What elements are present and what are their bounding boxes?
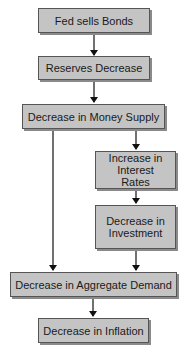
node-decrease-investment: Decrease in Investment bbox=[95, 205, 176, 249]
node-label: Decrease in Investment bbox=[104, 215, 167, 239]
node-fed-sells-bonds: Fed sells Bonds bbox=[38, 8, 150, 33]
node-increase-interest-rates: Increase in Interest Rates bbox=[95, 151, 176, 189]
node-decrease-inflation: Decrease in Inflation bbox=[38, 318, 149, 343]
node-label: Increase in Interest Rates bbox=[102, 152, 169, 188]
node-label: Decrease in Inflation bbox=[43, 325, 143, 337]
node-decrease-money-supply: Decrease in Money Supply bbox=[22, 104, 165, 129]
node-decrease-aggregate-demand: Decrease in Aggregate Demand bbox=[10, 272, 177, 297]
node-label: Decrease in Money Supply bbox=[28, 111, 159, 123]
node-reserves-decrease: Reserves Decrease bbox=[38, 56, 150, 80]
node-label: Reserves Decrease bbox=[46, 62, 143, 74]
node-label: Fed sells Bonds bbox=[55, 15, 133, 27]
node-label: Decrease in Aggregate Demand bbox=[15, 279, 172, 291]
